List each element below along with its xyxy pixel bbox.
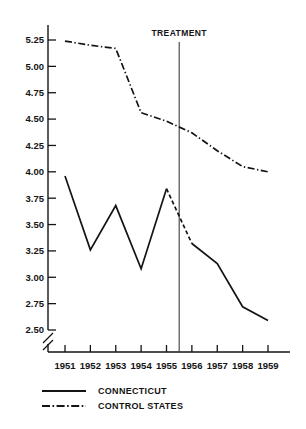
x-tick-label: 1958 [232, 360, 253, 371]
y-tick-label: 4.50 [26, 113, 45, 124]
series-line-connecticut-pre [65, 176, 167, 269]
y-tick-label: 4.00 [26, 166, 45, 177]
series-line-connecticut-post [192, 244, 268, 321]
x-tick-label: 1951 [54, 360, 76, 371]
y-tick-label: 3.00 [26, 272, 45, 283]
x-tick-label: 1954 [131, 360, 153, 371]
y-tick-label: 3.75 [26, 193, 45, 204]
legend-label-connecticut: CONNECTICUT [98, 386, 167, 396]
series-line-control-states [65, 41, 268, 172]
legend: CONNECTICUT CONTROL STATES [42, 386, 183, 411]
treatment-annotation: TREATMENT [151, 28, 207, 352]
x-axis-ticks: 195119521953195419551956195719581959 [54, 345, 278, 371]
x-tick-label: 1959 [257, 360, 278, 371]
y-tick-label: 4.75 [26, 87, 45, 98]
series-group [65, 41, 268, 320]
axes [43, 25, 290, 352]
y-axis-ticks: 5.255.004.754.504.254.003.753.503.253.00… [26, 34, 57, 335]
y-tick-label: 5.25 [26, 34, 45, 45]
x-tick-label: 1953 [105, 360, 126, 371]
y-tick-label: 4.25 [26, 140, 45, 151]
treatment-label: TREATMENT [151, 28, 207, 38]
x-tick-label: 1956 [181, 360, 202, 371]
x-tick-label: 1957 [207, 360, 228, 371]
legend-label-control-states: CONTROL STATES [98, 401, 183, 411]
x-tick-label: 1955 [156, 360, 178, 371]
y-tick-label: 2.75 [26, 298, 45, 309]
y-tick-label: 3.50 [26, 219, 45, 230]
x-tick-label: 1952 [80, 360, 101, 371]
y-tick-label: 3.25 [26, 245, 45, 256]
line-chart: 5.255.004.754.504.254.003.753.503.253.00… [0, 0, 306, 429]
y-tick-label: 2.50 [26, 324, 45, 335]
y-tick-label: 5.00 [26, 61, 45, 72]
chart-container: 5.255.004.754.504.254.003.753.503.253.00… [0, 0, 306, 429]
